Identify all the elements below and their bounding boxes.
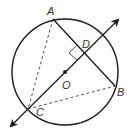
chord-ab [53,19,115,86]
label-d: D [82,38,90,50]
label-c: C [36,106,44,118]
center-point-o [63,70,67,74]
label-b: B [117,86,124,98]
line-cd [28,20,118,109]
segment-ac [28,19,53,109]
label-o: O [62,79,71,91]
circle-geometry-diagram: A B C D O [0,0,131,132]
right-angle-marker [69,45,77,60]
line-cd-extension [11,109,28,126]
label-a: A [46,5,54,17]
